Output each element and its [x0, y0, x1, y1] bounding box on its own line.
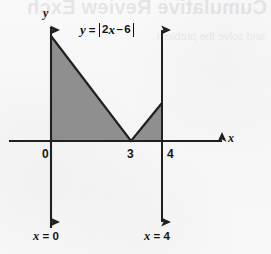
x-tick-label-4: 4 — [167, 147, 174, 161]
absolute-value-bars: 2 x – 6 — [99, 23, 135, 37]
boundary-label-x-4-value: 4 — [163, 230, 169, 242]
graph-canvas — [0, 0, 271, 254]
equation-equals: = — [87, 24, 99, 36]
boundary-label-x-0-value: 0 — [52, 230, 58, 242]
boundary-label-x-4-variable: x — [144, 229, 150, 243]
equation-constant: 6 — [124, 23, 130, 37]
boundary-label-x-0-variable: x — [33, 229, 39, 243]
boundary-label-x-4: x = 4 — [144, 229, 170, 244]
equation-operator: – — [115, 23, 124, 37]
x-tick-label-0: 0 — [42, 147, 49, 161]
absolute-value-graph-figure: Cumulative Review Exch and solve the pro… — [0, 0, 271, 254]
boundary-label-x-0-equals: = — [42, 230, 49, 242]
boundary-label-x-0: x = 0 — [33, 229, 59, 244]
equation-lhs: y — [80, 22, 87, 38]
boundary-label-x-4-equals: = — [153, 230, 160, 242]
y-axis-label: y — [43, 6, 48, 21]
x-axis-label: x — [228, 131, 234, 146]
equation-annotation: y = 2 x – 6 — [80, 22, 134, 38]
x-tick-label-3: 3 — [127, 147, 134, 161]
